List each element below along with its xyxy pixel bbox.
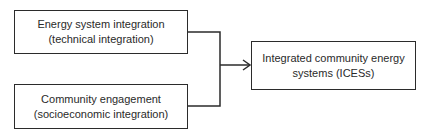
community-engagement-box: Community engagement (socioeconomic inte…: [14, 84, 188, 129]
energy-system-integration-box: Energy system integration (technical int…: [14, 10, 188, 54]
box-label-line2: (socioeconomic integration): [34, 107, 169, 122]
box-label-line2: systems (ICESs): [293, 66, 375, 81]
connector-top: [188, 32, 220, 106]
icess-box: Integrated community energy systems (ICE…: [251, 41, 416, 90]
box-label-line1: Energy system integration: [37, 17, 164, 32]
box-label-line1: Community engagement: [41, 92, 161, 107]
box-label-line1: Integrated community energy: [262, 51, 404, 66]
box-label-line2: (technical integration): [48, 32, 153, 47]
